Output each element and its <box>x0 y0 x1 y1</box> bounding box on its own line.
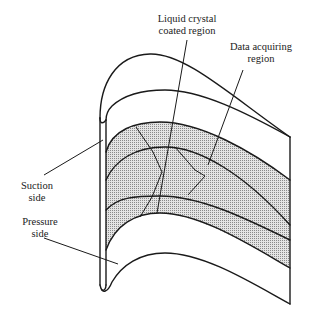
liquid-crystal-coated-region <box>106 122 290 268</box>
label-suction-side: Suction side <box>14 180 60 204</box>
label-data-acquiring-line2: region <box>226 53 296 65</box>
label-pressure-line2: side <box>14 228 66 240</box>
label-pressure-line1: Pressure <box>14 216 66 228</box>
hub-leading-notch <box>102 285 106 290</box>
label-pressure-side: Pressure side <box>14 216 66 240</box>
label-data-acquiring-line1: Data acquiring <box>226 41 296 53</box>
label-data-acquiring: Data acquiring region <box>226 41 296 65</box>
label-liquid-crystal-line2: coated region <box>155 25 219 37</box>
label-liquid-crystal-line1: Liquid crystal <box>155 13 219 25</box>
blade-hub-profile <box>100 253 290 304</box>
label-suction-line2: side <box>14 192 60 204</box>
leader-suction-side <box>44 140 103 175</box>
label-liquid-crystal: Liquid crystal coated region <box>155 13 219 37</box>
label-suction-line1: Suction <box>14 180 60 192</box>
tip-leading-bulb <box>100 118 106 123</box>
